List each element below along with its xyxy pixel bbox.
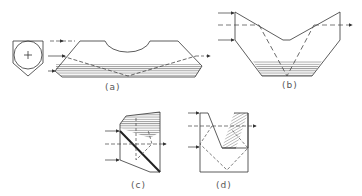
panel-d-prism <box>188 113 256 172</box>
panel-a-label: (a) <box>105 82 121 92</box>
panel-d-label: (d) <box>216 180 232 190</box>
panel-a-end-view <box>13 41 43 76</box>
panel-c-prism <box>105 112 166 172</box>
panel-a-prism <box>48 41 210 77</box>
diagram-canvas <box>0 0 362 196</box>
panel-b-label: (b) <box>282 80 298 90</box>
panel-b-prism <box>218 12 352 76</box>
panel-c-label: (c) <box>131 180 146 190</box>
